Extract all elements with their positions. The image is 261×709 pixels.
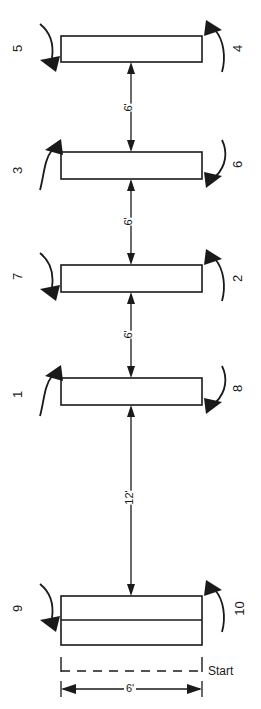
marker-label-left-1: 1 — [11, 391, 24, 398]
start-baseline — [61, 657, 202, 672]
gap-1-2-label: 6' — [122, 103, 135, 111]
marker-arrow-left-7 — [40, 253, 60, 301]
marker-arrow-left-3 — [40, 139, 63, 190]
marker-arrow-right-6 — [204, 140, 225, 188]
marker-arrow-left-9 — [40, 584, 60, 632]
marker-label-right-4: 4 — [231, 45, 244, 52]
marker-label-left-5: 5 — [11, 45, 24, 52]
marker-label-left-7: 7 — [11, 273, 24, 280]
gap-4-start-label: 12' — [123, 490, 136, 504]
start-label: Start — [208, 665, 233, 677]
marker-arrow-right-2 — [204, 249, 224, 301]
marker-arrow-right-4 — [204, 20, 224, 72]
marker-label-left-9: 9 — [11, 605, 24, 612]
marker-arrow-left-1 — [40, 365, 63, 416]
start-block — [61, 596, 202, 645]
gap-3-4-label: 6' — [122, 330, 135, 338]
width-dimension-label: 6' — [124, 683, 136, 694]
marker-label-right-2: 2 — [231, 275, 244, 282]
marker-label-right-10: 10 — [233, 601, 246, 615]
stripe-bar-2 — [61, 152, 202, 179]
stripe-bar-1 — [61, 36, 202, 62]
marker-arrow-right-10 — [204, 580, 224, 632]
marker-arrow-right-8 — [204, 366, 225, 414]
diagram-canvas: 5 4 3 6 7 2 1 8 9 10 6' 6' 6' 12' Start … — [0, 0, 261, 709]
stripe-bar-4 — [61, 378, 202, 405]
gap-2-3-label: 6' — [122, 217, 135, 225]
marker-label-right-6: 6 — [231, 161, 244, 168]
marker-label-left-3: 3 — [11, 167, 24, 174]
marker-label-right-8: 8 — [231, 385, 244, 392]
marker-arrow-left-5 — [40, 24, 60, 72]
stripe-bar-3 — [61, 265, 202, 292]
